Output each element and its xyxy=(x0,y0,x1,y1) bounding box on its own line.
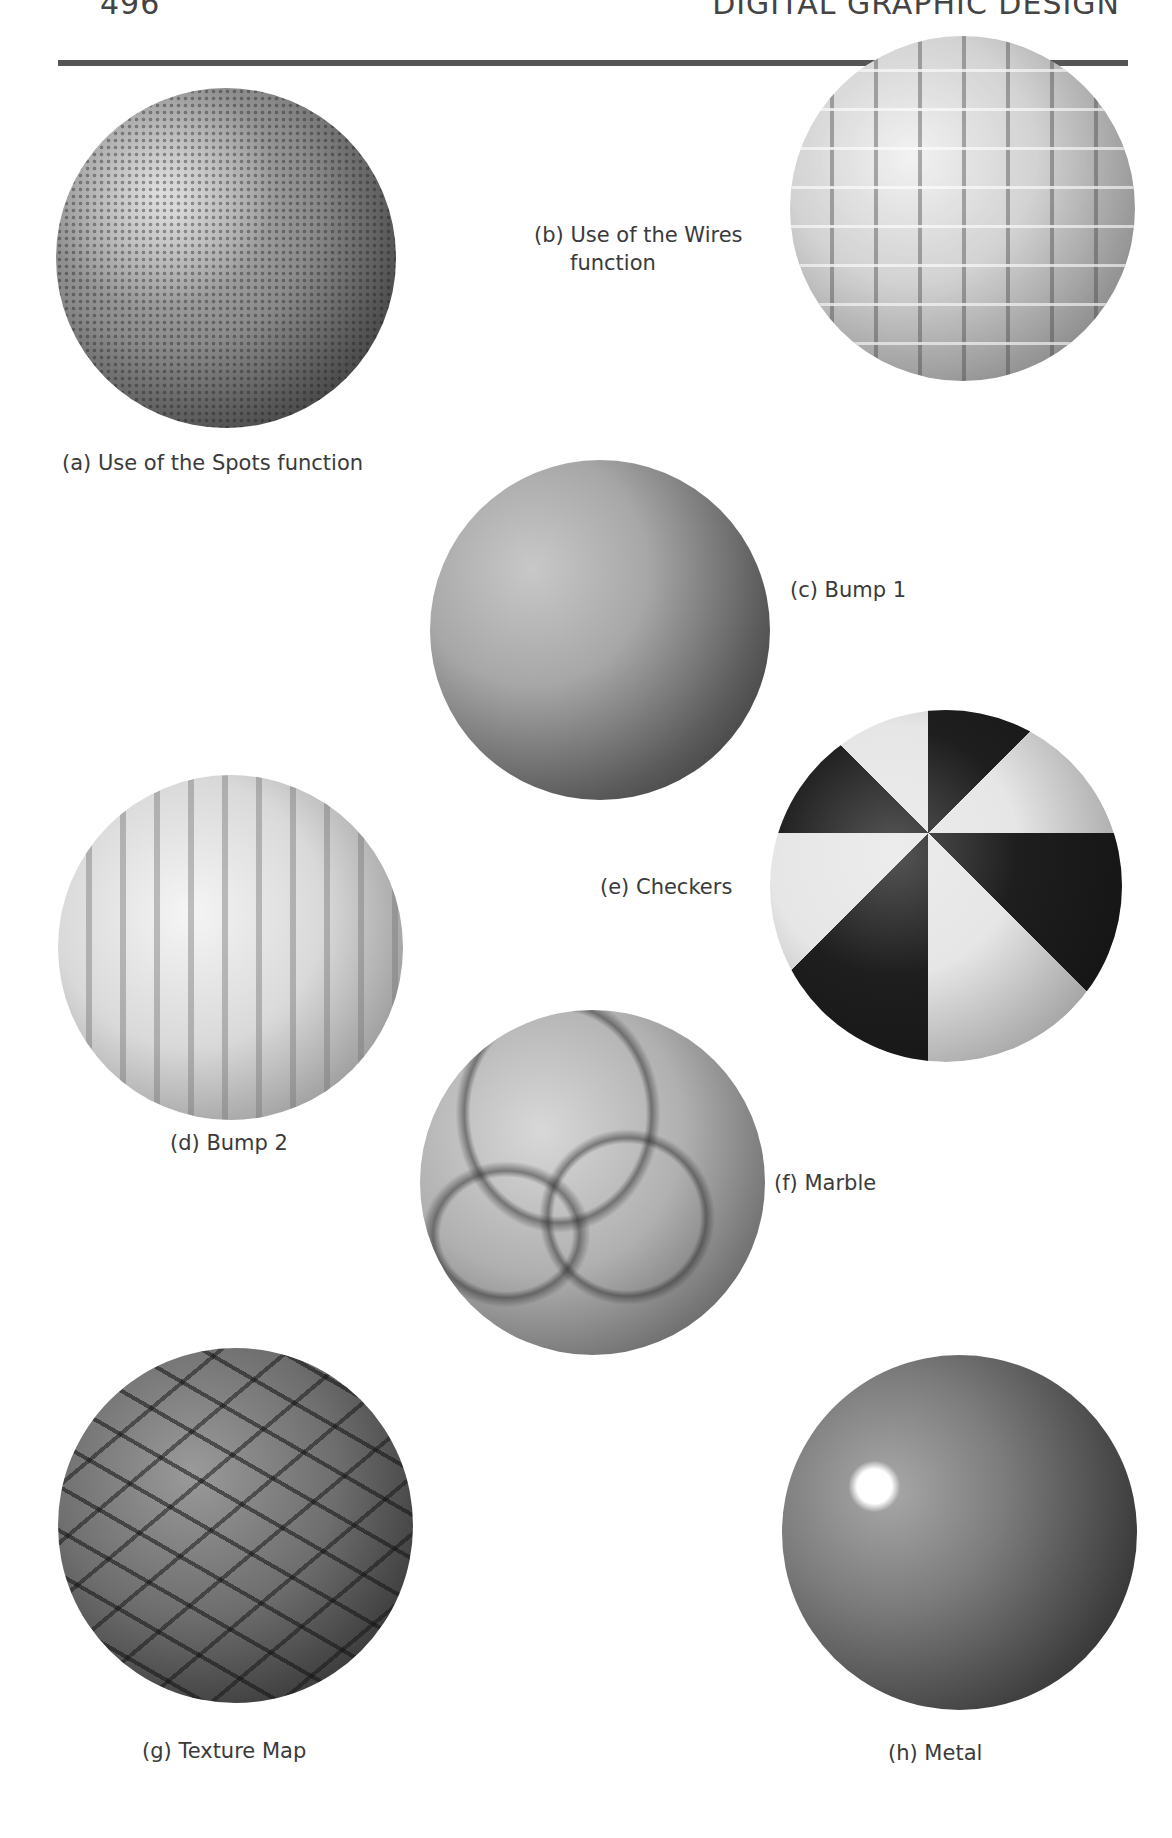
checkers-sphere-image xyxy=(770,710,1122,1062)
spots-sphere-image xyxy=(56,88,396,428)
caption-h: (h) Metal xyxy=(888,1740,982,1767)
caption-f: (f) Marble xyxy=(774,1170,876,1197)
wires-sphere-image xyxy=(790,36,1135,381)
caption-b-line2: function xyxy=(570,250,656,277)
caption-a: (a) Use of the Spots function xyxy=(62,450,363,477)
caption-g: (g) Texture Map xyxy=(142,1738,306,1765)
caption-e: (e) Checkers xyxy=(600,874,732,901)
caption-d: (d) Bump 2 xyxy=(170,1130,288,1157)
caption-c: (c) Bump 1 xyxy=(790,577,906,604)
caption-b-line1: (b) Use of the Wires xyxy=(534,222,743,249)
texture-map-sphere-image xyxy=(58,1348,413,1703)
marble-sphere-image xyxy=(420,1010,765,1355)
running-header: DIGITAL GRAPHIC DESIGN xyxy=(712,0,1120,21)
page-number: 496 xyxy=(100,0,160,21)
bump2-sphere-image xyxy=(58,775,403,1120)
metal-sphere-image xyxy=(782,1355,1137,1710)
bump1-sphere-image xyxy=(430,460,770,800)
